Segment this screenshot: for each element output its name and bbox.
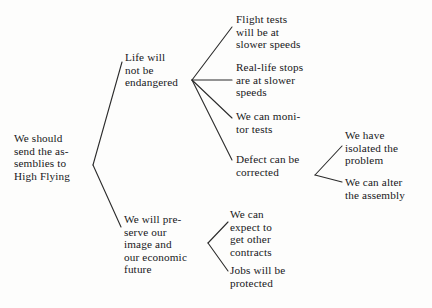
node-text-line: slower speeds [236, 38, 300, 51]
node-text-line: We have [345, 129, 398, 142]
edge-life-to-flight [192, 27, 232, 80]
support-monitor-tests: We can moni-tor tests [236, 110, 300, 135]
node-text-line: Jobs will be [230, 264, 285, 277]
node-text-line: endangered [125, 76, 178, 89]
node-text-line: Flight tests [236, 13, 300, 26]
node-text-line: problem [345, 154, 398, 167]
claim-root: We shouldsend the as-semblies toHigh Fly… [14, 132, 70, 182]
node-text-line: Defect can be [236, 153, 299, 166]
edge-image-to-jobs [208, 243, 228, 271]
edge-root-to-life [93, 62, 122, 165]
node-text-line: corrected [236, 166, 299, 179]
node-text-line: We should [14, 132, 70, 145]
node-text-line: contracts [230, 246, 272, 259]
reason-preserve-image: We will pre-serve ourimage andour econom… [124, 213, 187, 276]
argument-tree-diagram: We shouldsend the as-semblies toHigh Fly… [0, 0, 432, 308]
node-text-line: speeds [236, 86, 303, 99]
node-text-line: We can [230, 208, 272, 221]
node-text-line: protected [230, 277, 285, 290]
node-text-line: our economic [124, 251, 187, 264]
node-text-line: isolated the [345, 142, 398, 155]
node-text-line: send the as- [14, 145, 70, 158]
edge-defect-to-isolated [315, 146, 342, 175]
edge-life-to-monitor [192, 80, 232, 118]
reason-life-not-endangered: Life willnot beendangered [125, 51, 178, 89]
node-text-line: Real-life stops [236, 61, 303, 74]
node-text-line: serve our [124, 226, 187, 239]
node-text-line: We will pre- [124, 213, 187, 226]
edge-defect-to-alter [315, 175, 342, 182]
support-jobs-protected: Jobs will beprotected [230, 264, 285, 289]
node-text-line: will be at [236, 26, 300, 39]
node-text-line: future [124, 263, 187, 276]
node-text-line: semblies to [14, 157, 70, 170]
node-text-line: Life will [125, 51, 178, 64]
edge-root-to-image [93, 165, 121, 227]
support-flight-tests: Flight testswill be atslower speeds [236, 13, 300, 51]
node-text-line: get other [230, 233, 272, 246]
node-text-line: not be [125, 64, 178, 77]
node-text-line: are at slower [236, 74, 303, 87]
support-isolated-problem: We haveisolated theproblem [345, 129, 398, 167]
support-alter-assembly: We can alterthe assembly [345, 176, 405, 201]
support-defect-corrected: Defect can becorrected [236, 153, 299, 178]
node-text-line: expect to [230, 221, 272, 234]
node-text-line: tor tests [236, 123, 300, 136]
support-other-contracts: We canexpect toget othercontracts [230, 208, 272, 258]
node-text-line: image and [124, 238, 187, 251]
node-text-line: We can alter [345, 176, 405, 189]
node-text-line: the assembly [345, 189, 405, 202]
node-text-line: We can moni- [236, 110, 300, 123]
edge-image-to-contracts [208, 222, 228, 243]
edge-life-to-defect [192, 80, 232, 160]
node-text-line: High Flying [14, 170, 70, 183]
support-real-life-stops: Real-life stopsare at slowerspeeds [236, 61, 303, 99]
